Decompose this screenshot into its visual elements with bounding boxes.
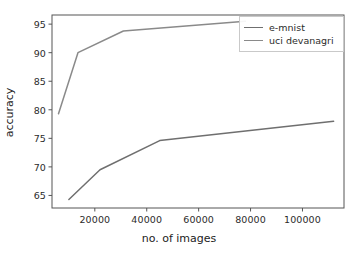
x-tick-label: 40000 (131, 214, 162, 225)
legend-label: e-mnist (269, 22, 305, 33)
x-axis-label: no. of images (0, 232, 358, 245)
x-tick-label: 80000 (235, 214, 266, 225)
x-tick-label: 100000 (284, 214, 321, 225)
y-tick-label: 95 (20, 19, 46, 30)
legend-item: e-mnist (244, 21, 338, 34)
y-axis-label: accuracy (4, 87, 17, 137)
y-tick-label: 85 (20, 76, 46, 87)
legend-line-swatch-e-mnist (244, 27, 263, 28)
y-tick-label: 75 (20, 133, 46, 144)
legend: e-mnist uci devanagri (239, 16, 344, 52)
x-tick-label: 20000 (79, 214, 110, 225)
y-tick-label: 65 (20, 190, 46, 201)
y-tick-label: 80 (20, 104, 46, 115)
legend-line-swatch-uci-devanagri (244, 40, 263, 41)
x-tick-label: 60000 (183, 214, 214, 225)
legend-item: uci devanagri (244, 34, 338, 47)
chart-figure: 65707580859095 2000040000600008000010000… (0, 0, 358, 256)
y-axis-label-container: accuracy (2, 0, 18, 224)
y-tick-label: 90 (20, 47, 46, 58)
legend-label: uci devanagri (269, 35, 334, 46)
y-tick-label: 70 (20, 161, 46, 172)
